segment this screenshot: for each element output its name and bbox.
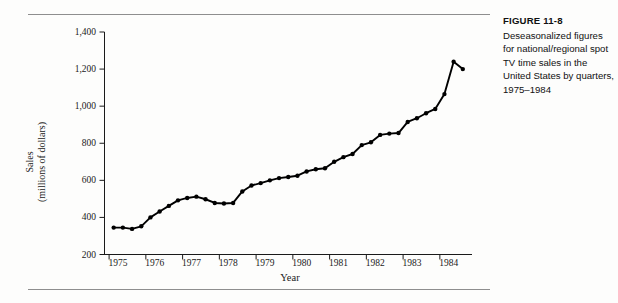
x-axis-title: Year <box>280 272 299 283</box>
x-axis-tick-label: 1978 <box>219 258 238 268</box>
y-axis-tick-label: 1,200 <box>54 64 96 74</box>
data-point-marker <box>405 120 409 124</box>
y-axis-tick-label: 400 <box>54 212 96 222</box>
x-axis-tick-label: 1981 <box>329 258 348 268</box>
data-series-group <box>111 59 465 231</box>
data-point-marker <box>369 140 373 144</box>
data-point-marker <box>139 224 143 228</box>
data-point-marker <box>111 225 115 229</box>
data-point-marker <box>451 59 455 63</box>
data-point-marker <box>378 133 382 137</box>
data-point-marker <box>314 167 318 171</box>
data-point-marker <box>332 160 336 164</box>
x-axis-tick-label: 1975 <box>109 258 128 268</box>
data-point-marker <box>461 67 465 71</box>
x-axis-tick-label: 1984 <box>439 258 458 268</box>
data-point-marker <box>167 204 171 208</box>
y-axis-ticks <box>100 32 105 255</box>
y-axis-title-line2: (millions of dollars) <box>36 102 48 222</box>
chart-axes <box>105 32 473 255</box>
figure-caption-body: Deseasonalized figures for national/regi… <box>503 29 615 97</box>
data-point-marker <box>277 176 281 180</box>
data-point-marker <box>442 92 446 96</box>
data-point-marker <box>323 166 327 170</box>
x-axis-tick-label: 1979 <box>256 258 275 268</box>
data-point-marker <box>424 111 428 115</box>
y-axis-tick-label: 600 <box>54 175 96 185</box>
data-point-marker <box>295 174 299 178</box>
data-point-marker <box>396 131 400 135</box>
data-point-marker <box>415 116 419 120</box>
series-markers <box>111 59 465 231</box>
data-point-marker <box>350 152 354 156</box>
data-point-marker <box>130 227 134 231</box>
data-point-marker <box>268 178 272 182</box>
data-point-marker <box>249 183 253 187</box>
y-axis-tick-label: 1,000 <box>54 101 96 111</box>
data-point-marker <box>258 181 262 185</box>
y-axis-tick-label: 200 <box>54 250 96 260</box>
x-axis-tick-label: 1976 <box>145 258 164 268</box>
data-point-marker <box>304 169 308 173</box>
x-axis-tick-label: 1980 <box>292 258 311 268</box>
data-point-marker <box>121 225 125 229</box>
figure-caption: FIGURE 11-8 Deseasonalized figures for n… <box>503 14 615 97</box>
y-axis-title-line1: Sales <box>24 102 36 222</box>
data-point-marker <box>360 143 364 147</box>
data-point-marker <box>231 201 235 205</box>
data-point-marker <box>185 196 189 200</box>
y-axis-tick-label: 800 <box>54 138 96 148</box>
data-point-marker <box>203 197 207 201</box>
data-point-marker <box>213 201 217 205</box>
data-point-marker <box>240 189 244 193</box>
figure-container: 2004006008001,0001,2001,400 197519761977… <box>0 0 618 303</box>
data-point-marker <box>433 107 437 111</box>
data-point-marker <box>286 175 290 179</box>
data-point-marker <box>341 155 345 159</box>
data-point-marker <box>148 215 152 219</box>
y-axis-tick-label: 1,400 <box>54 27 96 37</box>
chart-plot-area: 2004006008001,0001,2001,400 197519761977… <box>0 0 500 290</box>
series-line-deseasonalized-sales <box>114 62 463 229</box>
figure-caption-title: FIGURE 11-8 <box>503 14 615 28</box>
data-point-marker <box>157 209 161 213</box>
data-point-marker <box>387 131 391 135</box>
x-axis-tick-label: 1977 <box>182 258 201 268</box>
x-axis-tick-label: 1983 <box>403 258 422 268</box>
data-point-marker <box>194 194 198 198</box>
x-axis-tick-label: 1982 <box>366 258 385 268</box>
data-point-marker <box>222 201 226 205</box>
data-point-marker <box>176 198 180 202</box>
y-axis-title: Sales (millions of dollars) <box>24 102 48 222</box>
